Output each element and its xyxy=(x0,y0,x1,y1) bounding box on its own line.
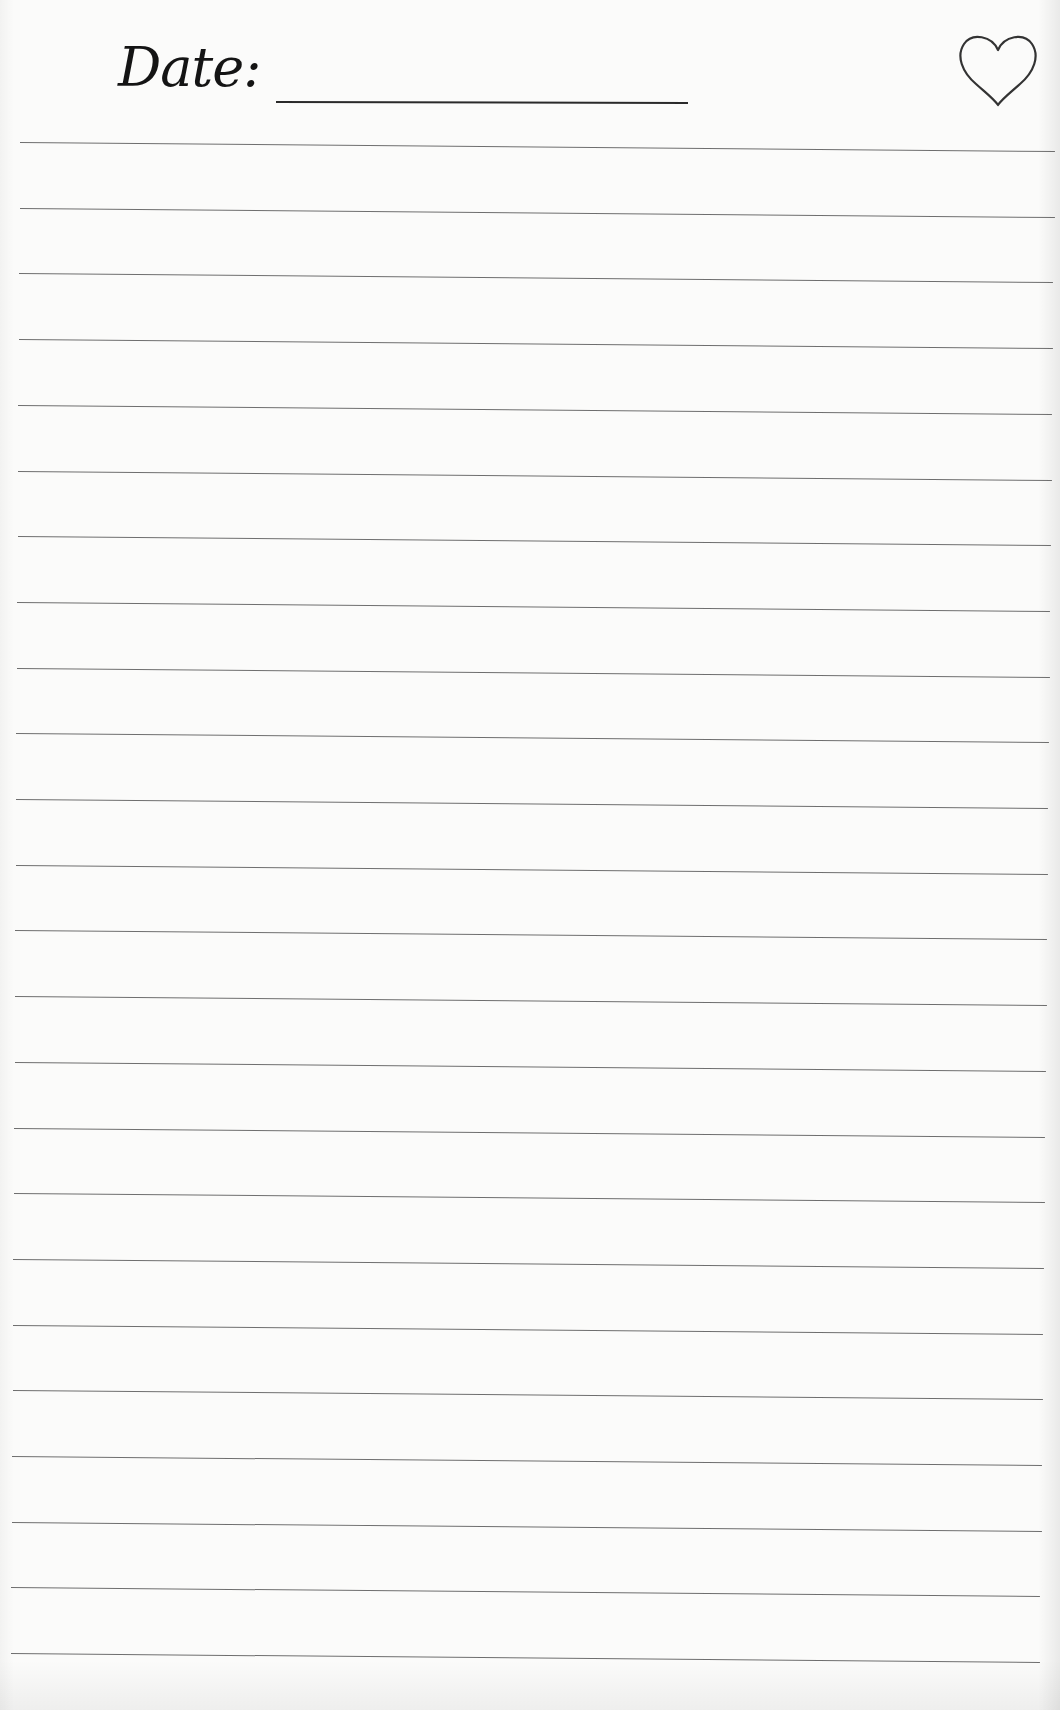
writing-line[interactable] xyxy=(18,405,1052,415)
writing-line[interactable] xyxy=(20,142,1055,152)
writing-line[interactable] xyxy=(20,208,1055,218)
writing-line[interactable] xyxy=(17,668,1050,678)
writing-line[interactable] xyxy=(18,471,1052,481)
writing-line[interactable] xyxy=(15,1062,1046,1072)
writing-line[interactable] xyxy=(16,733,1049,743)
writing-line[interactable] xyxy=(16,799,1048,809)
writing-line[interactable] xyxy=(11,1587,1040,1597)
writing-line[interactable] xyxy=(13,1390,1043,1400)
writing-line[interactable] xyxy=(15,930,1047,940)
writing-line[interactable] xyxy=(14,1193,1045,1203)
ruled-lines xyxy=(0,0,1060,1710)
journal-page: Date: xyxy=(0,0,1060,1710)
writing-line[interactable] xyxy=(13,1325,1043,1335)
writing-line[interactable] xyxy=(18,536,1051,546)
writing-line[interactable] xyxy=(16,865,1048,875)
writing-line[interactable] xyxy=(15,996,1047,1006)
writing-line[interactable] xyxy=(12,1522,1041,1532)
writing-line[interactable] xyxy=(17,602,1050,612)
writing-line[interactable] xyxy=(19,273,1053,283)
writing-line[interactable] xyxy=(13,1259,1044,1269)
writing-line[interactable] xyxy=(19,339,1053,349)
writing-line[interactable] xyxy=(12,1456,1042,1466)
writing-line[interactable] xyxy=(11,1653,1040,1663)
writing-line[interactable] xyxy=(14,1128,1045,1138)
